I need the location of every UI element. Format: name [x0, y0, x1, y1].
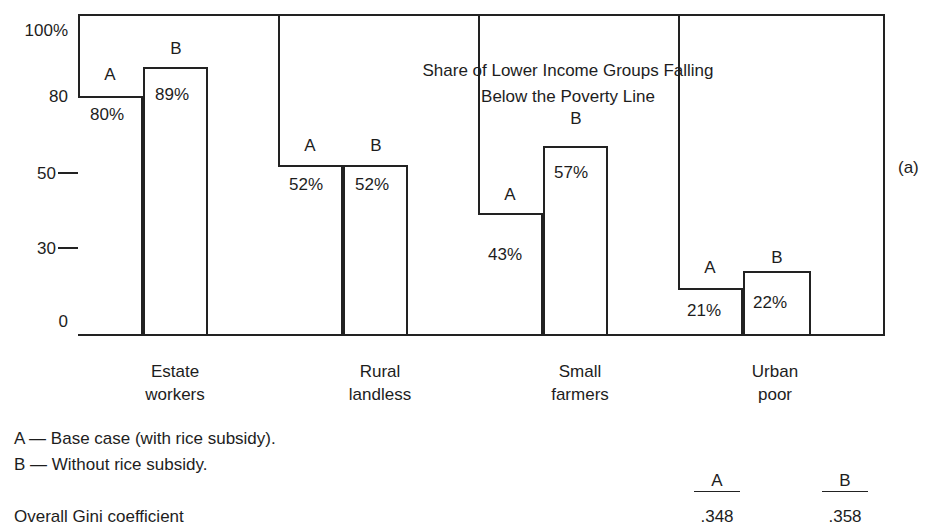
y-tick-label-50: 50 [6, 165, 56, 182]
bar-value-rural-landless-a: 52% [289, 176, 323, 193]
legend-line-a: A — Base case (with rice subsidy). [14, 430, 276, 447]
gini-header-a: A [694, 472, 740, 492]
category-label-estate-workers-line1: Estate [115, 360, 235, 383]
y-tick-mark-30 [58, 247, 80, 249]
bar-value-estate-workers-a: 80% [90, 106, 124, 123]
category-label-rural-landless-line1: Rural [320, 360, 440, 383]
bar-letter-rural-landless-b: B [345, 137, 407, 154]
y-tick-label-0: 0 [6, 313, 68, 330]
bar-letter-estate-workers-a: A [80, 66, 140, 83]
chart-title-line2: Below the Poverty Line [408, 84, 728, 110]
chart-title-line1: Share of Lower Income Groups Falling [408, 58, 728, 84]
gini-row-label: Overall Gini coefficient [14, 508, 184, 525]
legend-line-b: B — Without rice subsidy. [14, 456, 207, 473]
bar-letter-small-farmers-a: A [480, 186, 540, 203]
bar-value-estate-workers-b: 89% [155, 86, 189, 103]
bar-letter-urban-poor-a: A [680, 259, 740, 276]
figure-root: 100% 80 50 30 0 Share of Lower Income Gr… [0, 0, 936, 528]
bar-letter-rural-landless-a: A [280, 137, 340, 154]
bar-estate-workers-a [78, 96, 143, 334]
category-label-estate-workers-line2: workers [115, 383, 235, 406]
bar-value-rural-landless-b: 52% [355, 176, 389, 193]
bar-value-urban-poor-a: 21% [687, 302, 721, 319]
y-tick-label-80: 80 [6, 88, 68, 105]
category-label-small-farmers-line1: Small [520, 360, 640, 383]
bar-letter-estate-workers-b: B [145, 40, 207, 57]
bar-letter-small-farmers-b: B [545, 110, 607, 127]
bar-estate-workers-b [143, 67, 208, 334]
bar-value-small-farmers-b: 57% [554, 164, 588, 181]
category-label-urban-poor-line2: poor [715, 383, 835, 406]
bar-value-urban-poor-b: 22% [753, 294, 787, 311]
category-label-rural-landless-line2: landless [320, 383, 440, 406]
bar-letter-urban-poor-b: B [745, 249, 809, 266]
gini-value-a: .348 [690, 508, 744, 525]
y-tick-label-30: 30 [6, 240, 56, 257]
category-label-urban-poor-line1: Urban [715, 360, 835, 383]
bar-small-farmers-a [478, 213, 543, 334]
gini-header-b: B [822, 472, 868, 492]
bar-value-small-farmers-a: 43% [488, 246, 522, 263]
figure-tag: (a) [898, 159, 919, 176]
y-tick-label-100: 100% [6, 22, 68, 39]
gini-value-b: .358 [818, 508, 872, 525]
category-label-small-farmers-line2: farmers [520, 383, 640, 406]
y-tick-mark-50 [58, 172, 80, 174]
